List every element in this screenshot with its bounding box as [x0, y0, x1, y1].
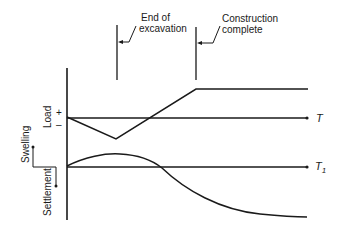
time-axis-bottom-subscript: 1 [322, 166, 326, 175]
construction-complete-line2: complete [222, 24, 278, 35]
construction-complete-line1: Construction [222, 13, 278, 24]
leader-arrow-construction [197, 41, 202, 45]
end-of-excavation-label: End of excavation [141, 12, 187, 34]
end-of-excavation-leader [120, 26, 136, 42]
swelling-arrowhead [32, 146, 35, 149]
load-curve [67, 89, 308, 139]
time-axis-bottom-main: T [315, 160, 322, 172]
construction-complete-label: Construction complete [222, 13, 278, 35]
settlement-label: Settlement [42, 168, 53, 216]
load-axis-label: Load [42, 106, 53, 128]
leader-arrow-excavation [118, 40, 123, 44]
end-of-excavation-line1: End of [141, 12, 187, 23]
settlement-arrowhead [55, 185, 58, 188]
construction-complete-leader [199, 26, 220, 43]
swelling-label: Swelling [20, 126, 31, 163]
load-minus-sign: – [56, 119, 62, 130]
time-axis-top-label: T [316, 113, 323, 124]
t-axis-arrowhead [305, 116, 308, 119]
time-axis-bottom-label: T1 [315, 161, 326, 173]
end-of-excavation-line2: excavation [139, 23, 187, 34]
t1-axis-arrowhead [305, 165, 308, 168]
settlement-curve [67, 154, 307, 217]
load-plus-sign: + [56, 107, 62, 118]
